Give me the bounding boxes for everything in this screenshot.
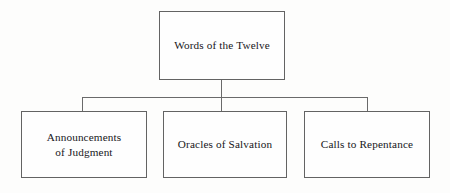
node-child-2-label: Calls to Repentance xyxy=(317,137,417,152)
node-root[interactable]: Words of the Twelve xyxy=(159,11,285,80)
node-child-0-label: Announcements of Judgment xyxy=(43,130,126,160)
node-child-announcements-of-judgment[interactable]: Announcements of Judgment xyxy=(21,111,147,178)
connector-drop-middle xyxy=(221,97,222,111)
diagram-canvas: Words of the Twelve Announcements of Jud… xyxy=(0,0,450,193)
node-child-oracles-of-salvation[interactable]: Oracles of Salvation xyxy=(163,111,287,178)
node-root-label: Words of the Twelve xyxy=(170,38,274,53)
node-child-calls-to-repentance[interactable]: Calls to Repentance xyxy=(304,111,430,178)
connector-horizontal-bus xyxy=(82,97,368,98)
node-child-1-label: Oracles of Salvation xyxy=(174,137,276,152)
connector-drop-left xyxy=(82,97,83,111)
connector-drop-right xyxy=(367,97,368,111)
